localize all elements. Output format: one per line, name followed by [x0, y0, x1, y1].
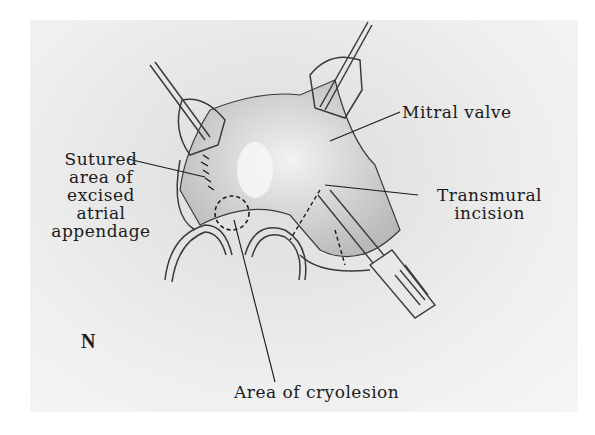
atrium-tissue — [180, 80, 400, 257]
label-line: excised — [36, 186, 166, 204]
label-transmural-incision: Transmural incision — [412, 186, 567, 222]
label-sutured-area: Sutured area of excised atrial appendage — [36, 150, 166, 240]
label-mitral-valve: Mitral valve — [402, 104, 512, 121]
panel-letter: N — [81, 333, 96, 350]
label-line: atrial — [36, 204, 166, 222]
label-line: Transmural — [412, 186, 567, 204]
label-area-of-cryolesion: Area of cryolesion — [234, 384, 399, 401]
label-line: appendage — [36, 222, 166, 240]
label-line: area of — [36, 168, 166, 186]
label-line: Sutured — [36, 150, 166, 168]
label-line: incision — [412, 204, 567, 222]
